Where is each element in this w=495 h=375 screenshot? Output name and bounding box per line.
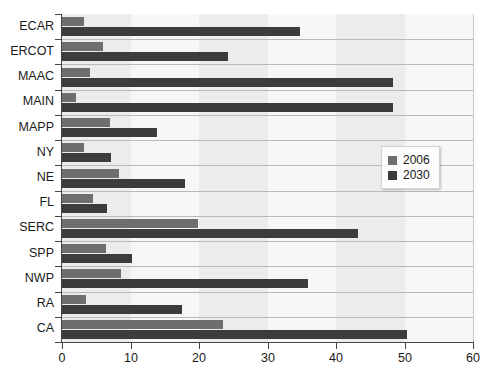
x-tick-label-40: 40	[316, 351, 356, 365]
legend-item-2006: 2006	[388, 153, 430, 167]
bar-fl-2006	[62, 194, 93, 203]
y-tick-label-ercot: ERCOT	[0, 44, 54, 58]
row-separator	[62, 64, 473, 65]
y-tick	[55, 64, 62, 65]
y-tick	[55, 317, 62, 318]
y-tick	[55, 39, 62, 40]
y-tick	[55, 241, 62, 242]
bar-ercot-2006	[62, 42, 103, 51]
bar-nwp-2006	[62, 269, 121, 278]
bar-ny-2006	[62, 143, 84, 152]
y-tick	[55, 292, 62, 293]
y-tick	[55, 342, 62, 343]
bar-fl-2030	[62, 204, 107, 213]
bar-chart: ECARERCOTMAACMAINMAPPNYNEFLSERCSPPNWPRAC…	[0, 0, 495, 375]
row-separator	[62, 140, 473, 141]
y-tick	[55, 14, 62, 15]
legend-item-2030: 2030	[388, 168, 430, 182]
bar-nwp-2030	[62, 279, 308, 288]
bar-main-2006	[62, 93, 76, 102]
y-tick-label-mapp: MAPP	[0, 120, 54, 134]
plot-right-border	[473, 14, 474, 343]
y-tick	[55, 165, 62, 166]
y-tick-label-spp: SPP	[0, 246, 54, 260]
row-separator	[62, 90, 473, 91]
y-tick-label-ca: CA	[0, 321, 54, 335]
bar-ca-2006	[62, 320, 223, 329]
bar-ne-2006	[62, 169, 119, 178]
legend-swatch-icon-2006	[388, 156, 397, 165]
x-tick	[473, 343, 474, 349]
row-separator	[62, 191, 473, 192]
row-separator	[62, 266, 473, 267]
row-separator	[62, 115, 473, 116]
row-separator	[62, 317, 473, 318]
row-separator	[62, 241, 473, 242]
row-separator	[62, 292, 473, 293]
bar-mapp-2006	[62, 118, 110, 127]
x-tick	[62, 343, 63, 349]
row-separator	[62, 39, 473, 40]
y-tick-label-fl: FL	[0, 195, 54, 209]
y-tick	[55, 140, 62, 141]
y-tick-label-ecar: ECAR	[0, 19, 54, 33]
x-tick-label-30: 30	[248, 351, 288, 365]
x-tick-label-50: 50	[385, 351, 425, 365]
bar-mapp-2030	[62, 128, 157, 137]
x-tick	[199, 343, 200, 349]
y-tick-label-ra: RA	[0, 296, 54, 310]
x-tick	[268, 343, 269, 349]
x-tick-label-60: 60	[453, 351, 493, 365]
y-tick	[55, 266, 62, 267]
bar-spp-2030	[62, 254, 132, 263]
bar-ne-2030	[62, 179, 185, 188]
y-tick-label-maac: MAAC	[0, 69, 54, 83]
bar-ercot-2030	[62, 52, 228, 61]
chart-legend: 20062030	[381, 146, 440, 189]
bar-ecar-2030	[62, 27, 300, 36]
legend-swatch-icon-2030	[388, 171, 397, 180]
y-tick	[55, 90, 62, 91]
bar-serc-2006	[62, 219, 198, 228]
x-tick	[336, 343, 337, 349]
y-tick	[55, 115, 62, 116]
bar-ca-2030	[62, 330, 407, 339]
y-tick-label-serc: SERC	[0, 220, 54, 234]
bar-ra-2030	[62, 305, 182, 314]
bar-spp-2006	[62, 244, 106, 253]
bar-serc-2030	[62, 229, 358, 238]
bar-ecar-2006	[62, 17, 84, 26]
legend-label-2006: 2006	[403, 153, 430, 167]
x-tick-label-20: 20	[179, 351, 219, 365]
y-tick	[55, 216, 62, 217]
y-tick-label-main: MAIN	[0, 94, 54, 108]
bar-maac-2030	[62, 78, 393, 87]
bar-main-2030	[62, 103, 393, 112]
x-tick	[405, 343, 406, 349]
x-tick-label-0: 0	[42, 351, 82, 365]
row-separator	[62, 216, 473, 217]
y-tick-label-ny: NY	[0, 145, 54, 159]
x-tick	[131, 343, 132, 349]
y-tick-label-ne: NE	[0, 170, 54, 184]
x-tick-label-10: 10	[111, 351, 151, 365]
y-tick-label-nwp: NWP	[0, 271, 54, 285]
bar-ra-2006	[62, 295, 86, 304]
bar-ny-2030	[62, 153, 111, 162]
y-tick	[55, 191, 62, 192]
bar-maac-2006	[62, 68, 90, 77]
legend-label-2030: 2030	[403, 168, 430, 182]
